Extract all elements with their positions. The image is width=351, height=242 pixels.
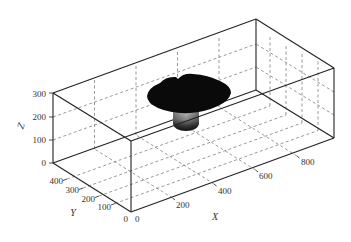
y-tick-400: 400 [50, 176, 64, 186]
z-axis-label: Z [15, 121, 27, 130]
x-axis-label: X [211, 211, 219, 222]
z-tick-200: 200 [33, 112, 47, 122]
y-axis: 0 100 200 300 400 Y [50, 176, 129, 224]
x-tick-800: 800 [301, 157, 315, 167]
x-tick-400: 400 [218, 186, 232, 196]
y-tick-0: 0 [124, 214, 129, 224]
x-axis: 0 200 400 600 800 X [135, 156, 315, 224]
3d-plot: 0 100 200 300 Z 0 100 200 300 400 Y 0 20… [0, 0, 351, 242]
object-cap [147, 74, 231, 113]
z-tick-0: 0 [42, 158, 47, 168]
z-axis: 0 100 200 300 Z [15, 89, 53, 168]
x-tick-600: 600 [259, 171, 273, 181]
y-axis-label: Y [70, 207, 77, 218]
y-tick-200: 200 [82, 194, 96, 204]
y-tick-100: 100 [98, 202, 112, 212]
z-tick-100: 100 [33, 135, 47, 145]
x-tick-200: 200 [176, 200, 190, 210]
x-tick-0: 0 [135, 214, 140, 224]
z-tick-300: 300 [33, 89, 47, 99]
y-tick-300: 300 [66, 185, 80, 195]
surface-object [147, 74, 231, 131]
